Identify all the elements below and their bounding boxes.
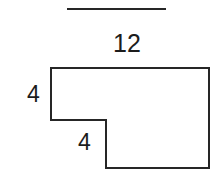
dimension-label-left-height: 4 bbox=[27, 83, 40, 106]
dimension-label-top-length: 12 bbox=[113, 31, 141, 56]
figure-canvas: 12 4 4 bbox=[0, 0, 223, 178]
dimension-label-inner-height: 4 bbox=[78, 131, 91, 154]
